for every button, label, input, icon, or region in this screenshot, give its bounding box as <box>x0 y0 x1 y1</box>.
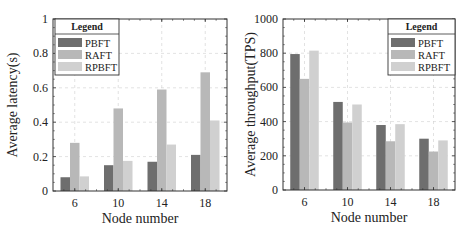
bar-pbft-10 <box>104 165 114 191</box>
y-tick-label: 0.4 <box>33 115 48 129</box>
bar-pbft-6 <box>290 54 300 190</box>
legend-title: Legend <box>71 21 103 32</box>
legend-label-pbft: PBFT <box>85 38 111 49</box>
y-axis-label: Average latency(s) <box>5 52 21 157</box>
y-axis-label: Average throughput(TPS) <box>243 32 259 177</box>
bar-pbft-18 <box>191 155 201 191</box>
bar-raft-18 <box>429 152 439 190</box>
y-tick-label: 0.6 <box>33 81 48 95</box>
legend-swatch-raft <box>58 50 82 59</box>
x-tick-label: 18 <box>428 195 440 209</box>
legend-label-rpbft: RPBFT <box>85 62 118 73</box>
x-axis-label: Node number <box>102 211 179 226</box>
y-tick-label: 400 <box>260 115 278 129</box>
legend-label-raft: RAFT <box>85 50 112 61</box>
bar-pbft-14 <box>376 125 386 190</box>
bar-rpbft-18 <box>438 140 448 190</box>
x-tick-label: 6 <box>302 195 308 209</box>
legend: LegendPBFTRAFTRPBFT <box>388 19 455 75</box>
legend-label-raft: RAFT <box>418 50 445 61</box>
y-tick-label: 800 <box>260 46 278 60</box>
y-tick-label: 0 <box>272 183 278 197</box>
bar-pbft-14 <box>148 162 158 191</box>
bar-rpbft-14 <box>167 145 177 191</box>
x-tick-label: 14 <box>156 196 168 210</box>
bar-rpbft-14 <box>395 124 405 190</box>
y-tick-label: 600 <box>260 80 278 94</box>
bar-pbft-10 <box>333 102 343 190</box>
bar-raft-10 <box>114 108 124 191</box>
bar-raft-14 <box>386 141 396 190</box>
y-tick-label: 1 <box>42 12 48 26</box>
throughput-chart: 020040060080010006101418Node numberAvera… <box>243 12 455 225</box>
bar-raft-10 <box>343 122 353 190</box>
x-tick-label: 6 <box>72 196 78 210</box>
bar-raft-18 <box>201 72 211 191</box>
bar-pbft-6 <box>61 177 71 191</box>
bar-raft-6 <box>70 143 80 191</box>
legend-swatch-raft <box>391 50 415 59</box>
legend-label-rpbft: RPBFT <box>418 62 451 73</box>
bar-rpbft-10 <box>123 161 133 191</box>
x-tick-label: 14 <box>385 195 397 209</box>
bar-pbft-18 <box>419 139 429 190</box>
legend-swatch-rpbft <box>391 62 415 71</box>
bar-rpbft-6 <box>309 51 319 190</box>
legend: LegendPBFTRAFTRPBFT <box>55 19 119 75</box>
y-tick-label: 0.8 <box>33 46 48 60</box>
x-tick-label: 10 <box>112 196 124 210</box>
bar-rpbft-10 <box>352 105 362 191</box>
x-tick-label: 18 <box>199 196 211 210</box>
y-tick-label: 0 <box>42 184 48 198</box>
legend-label-pbft: PBFT <box>418 38 444 49</box>
legend-title: Legend <box>406 21 438 32</box>
y-tick-label: 0.2 <box>33 150 48 164</box>
legend-swatch-pbft <box>58 38 82 47</box>
bar-raft-6 <box>300 79 310 190</box>
figure: 00.20.40.60.816101418Node numberAverage … <box>0 0 474 234</box>
y-tick-label: 1000 <box>254 12 278 26</box>
legend-swatch-rpbft <box>58 62 82 71</box>
latency-chart: 00.20.40.60.816101418Node numberAverage … <box>5 12 227 226</box>
bar-rpbft-6 <box>80 176 90 191</box>
legend-swatch-pbft <box>391 38 415 47</box>
x-tick-label: 10 <box>342 195 354 209</box>
x-axis-label: Node number <box>331 210 408 225</box>
bar-rpbft-18 <box>210 120 220 191</box>
y-tick-label: 200 <box>260 149 278 163</box>
bar-raft-14 <box>157 90 167 191</box>
